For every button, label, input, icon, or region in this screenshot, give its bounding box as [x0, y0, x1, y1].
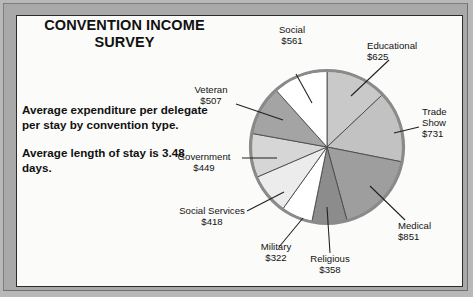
callout-trade-show: Trade Show $731: [422, 106, 470, 140]
callout-military: Military $322: [243, 241, 309, 263]
callout-social: Social $561: [254, 24, 330, 46]
callout-veteran: Veteran $507: [178, 84, 244, 106]
chart-screenshot: CONVENTION INCOME SURVEY Average expendi…: [0, 0, 473, 297]
callout-social-services: Social Services $418: [166, 205, 258, 227]
callout-educational: Educational $625: [367, 40, 453, 62]
callout-government: Government $449: [162, 151, 246, 173]
callout-medical: Medical $851: [398, 220, 460, 242]
